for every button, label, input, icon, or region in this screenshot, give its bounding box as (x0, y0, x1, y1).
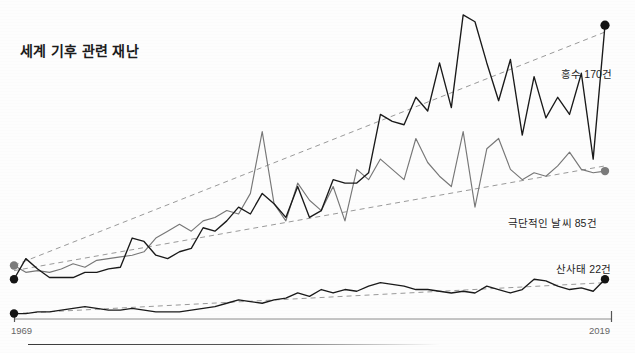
series-label-flood: 홍수 170건 (561, 66, 612, 81)
series-label-extreme-weather: 극단적인 날씨 85건 (508, 215, 597, 230)
series-line-extreme-weather (14, 132, 605, 273)
end-marker-flood (600, 21, 609, 30)
start-marker-landslide (10, 309, 18, 317)
footer-divider (28, 344, 440, 345)
end-marker-landslide (601, 275, 609, 283)
series-line-landslide (14, 279, 605, 313)
axis-label-end-year: 2019 (589, 325, 610, 336)
start-marker-flood (10, 275, 18, 283)
data-series (14, 15, 605, 314)
series-line-flood (14, 15, 605, 279)
start-marker-extreme-weather (10, 261, 18, 269)
endpoint-markers (10, 21, 610, 318)
x-axis (14, 311, 612, 322)
series-label-landslide: 산사태 22건 (556, 261, 611, 276)
trend-line-flood (14, 32, 605, 265)
climate-disasters-line-chart (0, 0, 635, 353)
chart-page: 세계 기후 관련 재난 홍수 170건 (0, 0, 635, 353)
end-marker-extreme-weather (601, 167, 609, 175)
axis-label-start-year: 1969 (11, 325, 32, 336)
